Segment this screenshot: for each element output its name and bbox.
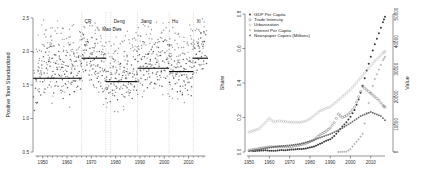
data-point [194, 62, 195, 63]
data-point [67, 87, 69, 89]
data-point [335, 133, 337, 135]
data-point [112, 90, 114, 92]
data-point [78, 57, 79, 58]
data-point [315, 138, 317, 140]
data-point [172, 97, 173, 98]
y2-tick-label: 10000 [394, 118, 399, 131]
data-point [323, 135, 325, 137]
data-point [59, 58, 60, 59]
data-point [126, 55, 127, 56]
data-point [362, 133, 364, 135]
data-point [48, 51, 49, 52]
data-point [341, 96, 343, 98]
data-point [169, 46, 170, 47]
data-point [187, 43, 188, 44]
data-point [164, 39, 165, 40]
data-point [63, 51, 64, 52]
data-point [275, 146, 277, 148]
data-point [54, 30, 55, 31]
data-point [354, 119, 356, 121]
data-point [50, 35, 51, 36]
data-point [315, 113, 317, 115]
data-point [48, 76, 49, 77]
data-point [93, 50, 94, 51]
data-point [191, 86, 192, 87]
data-point [136, 72, 137, 73]
data-point [60, 33, 61, 34]
data-point [110, 79, 111, 80]
data-point [175, 75, 176, 76]
data-point [155, 74, 157, 76]
data-point [358, 79, 360, 81]
data-point [41, 51, 42, 52]
data-point [171, 55, 172, 56]
data-point [156, 54, 157, 55]
data-point [36, 102, 37, 103]
data-point [77, 65, 78, 66]
data-point [115, 92, 116, 93]
data-point [166, 75, 167, 76]
data-point [40, 94, 42, 96]
data-point [194, 44, 195, 45]
data-point [118, 48, 119, 49]
data-point [200, 50, 201, 51]
data-point [148, 73, 149, 74]
data-point [152, 47, 153, 48]
data-point [313, 145, 315, 147]
data-point [53, 92, 55, 94]
data-point [110, 83, 112, 85]
data-point [305, 147, 307, 149]
data-point [291, 149, 293, 151]
data-point [119, 68, 120, 69]
data-point [69, 94, 71, 96]
data-point [204, 41, 206, 43]
data-point [335, 117, 337, 119]
data-point [59, 44, 60, 45]
data-point [307, 147, 309, 149]
data-point [152, 72, 154, 74]
data-point [148, 70, 149, 71]
data-point [202, 52, 203, 53]
data-point [158, 51, 159, 52]
data-point [41, 68, 42, 69]
data-point [364, 87, 366, 89]
x-tick-label: 1950 [38, 160, 49, 165]
data-point [111, 77, 112, 78]
data-point [65, 84, 66, 85]
data-point [262, 149, 264, 151]
data-point [91, 79, 93, 81]
data-point [376, 73, 378, 75]
data-point [180, 86, 182, 88]
data-point [126, 78, 127, 79]
data-point [70, 43, 71, 44]
data-point [182, 92, 183, 93]
data-point [83, 55, 84, 56]
data-point [279, 145, 281, 147]
data-point [76, 49, 77, 50]
data-point [178, 76, 179, 77]
data-point [317, 144, 319, 146]
data-point [355, 81, 357, 83]
data-point [86, 43, 87, 44]
data-point [138, 81, 140, 83]
data-point [66, 65, 67, 66]
data-point [140, 83, 141, 84]
data-point [372, 94, 374, 96]
data-point [189, 24, 190, 25]
data-point [170, 72, 172, 74]
data-point [149, 43, 150, 44]
data-point [202, 42, 203, 43]
data-point [329, 138, 331, 140]
data-point [177, 66, 178, 67]
data-point [96, 56, 98, 58]
data-point [185, 63, 187, 64]
data-point [169, 38, 170, 39]
data-point [151, 38, 152, 39]
data-point [277, 146, 279, 148]
legend: GDP Per CapitaTrade IntensityUrbanizatio… [249, 12, 311, 38]
data-point [89, 25, 90, 26]
data-point [110, 67, 111, 68]
data-point [176, 82, 177, 83]
data-point [182, 86, 183, 87]
data-point [66, 38, 67, 39]
